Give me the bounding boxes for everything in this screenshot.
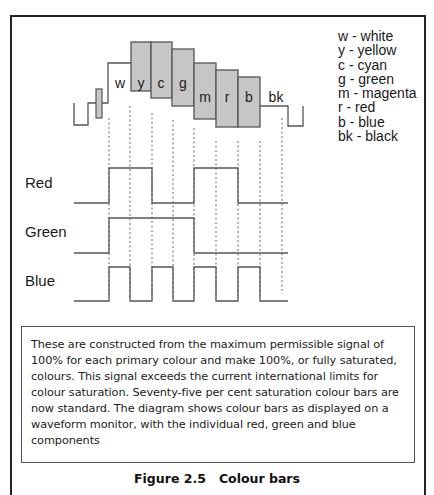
green-signal-label: Green bbox=[25, 223, 67, 240]
colour-bar-blocks bbox=[131, 42, 260, 127]
green-signal bbox=[74, 218, 288, 253]
legend: w - white y - yellow c - cyan g - green … bbox=[338, 29, 417, 143]
description-text: These are constructed from the maximum p… bbox=[31, 337, 406, 449]
bar-label-c: c bbox=[158, 75, 165, 91]
blue-signal-label: Blue bbox=[25, 272, 55, 289]
legend-item: g - green bbox=[338, 72, 417, 86]
legend-item: y - yellow bbox=[338, 43, 417, 57]
bar-label-y: y bbox=[138, 75, 145, 91]
legend-item: c - cyan bbox=[338, 58, 417, 72]
legend-item: m - magenta bbox=[338, 86, 417, 100]
legend-item: r - red bbox=[338, 100, 417, 114]
description-box: These are constructed from the maximum p… bbox=[21, 326, 415, 463]
bar-label-r: r bbox=[225, 89, 230, 105]
red-signal-label: Red bbox=[25, 174, 53, 191]
legend-item: w - white bbox=[338, 29, 417, 43]
bar-label-w: w bbox=[114, 75, 126, 91]
bar-label-b: b bbox=[245, 89, 253, 105]
legend-item: bk - black bbox=[338, 129, 417, 143]
legend-item: b - blue bbox=[338, 115, 417, 129]
blue-signal bbox=[74, 267, 288, 301]
red-signal bbox=[74, 168, 288, 203]
figure-caption: Figure 2.5 Colour bars bbox=[0, 471, 434, 486]
bar-label-bk: bk bbox=[269, 89, 285, 105]
bar-label-m: m bbox=[199, 89, 211, 105]
timing-guides bbox=[109, 106, 282, 298]
bar-label-g: g bbox=[179, 75, 187, 91]
colour-burst bbox=[96, 89, 102, 118]
